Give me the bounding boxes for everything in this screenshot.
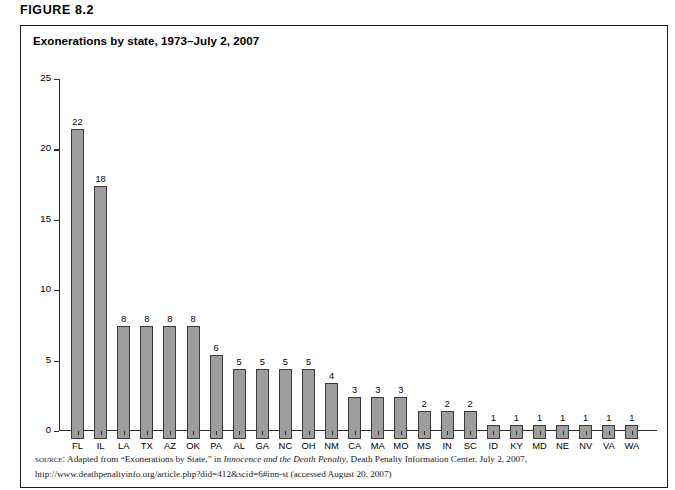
bar[interactable]: 18 — [94, 87, 107, 439]
x-axis-label: PA — [203, 440, 229, 451]
x-axis-label: AZ — [157, 440, 183, 451]
y-tick-mark — [54, 220, 59, 221]
x-tick-mark — [355, 431, 356, 435]
bar-value-label: 22 — [72, 117, 82, 127]
x-tick-mark — [401, 431, 402, 435]
bar-rect — [117, 326, 130, 439]
bar[interactable]: 2 — [441, 87, 454, 439]
x-tick-mark — [378, 431, 379, 435]
bar[interactable]: 1 — [487, 87, 500, 439]
bar[interactable]: 8 — [117, 87, 130, 439]
x-tick-mark — [540, 431, 541, 435]
bar-value-label: 4 — [329, 371, 334, 381]
x-axis-label: NC — [272, 440, 298, 451]
bar[interactable]: 8 — [163, 87, 176, 439]
bar-rect — [71, 129, 84, 439]
y-tick-label: 15 — [40, 213, 51, 224]
x-axis-label: VA — [596, 440, 622, 451]
x-axis-label: KY — [503, 440, 529, 451]
source-italic-title: Innocence and the Death Penalty — [224, 454, 346, 464]
x-axis-label: OK — [180, 440, 206, 451]
chart-plot-area: 0510152025 221888886555543332221111111 F… — [59, 79, 657, 439]
bar-value-label: 6 — [214, 343, 219, 353]
bar[interactable]: 5 — [233, 87, 246, 439]
bar[interactable]: 22 — [71, 87, 84, 439]
x-tick-mark — [147, 431, 148, 435]
x-tick-mark — [609, 431, 610, 435]
y-tick-mark — [54, 290, 59, 291]
bar[interactable]: 4 — [325, 87, 338, 439]
x-axis-label: IN — [434, 440, 460, 451]
bar[interactable]: 2 — [418, 87, 431, 439]
bar[interactable]: 3 — [348, 87, 361, 439]
bar-value-label: 5 — [306, 357, 311, 367]
x-axis-label: ID — [480, 440, 506, 451]
bar[interactable]: 3 — [394, 87, 407, 439]
source-label: source: — [35, 453, 65, 464]
bar-rect — [233, 369, 246, 439]
source-note: source: Adapted from “Exonerations by St… — [35, 452, 653, 481]
x-axis-label: LA — [111, 440, 137, 451]
x-tick-mark — [332, 431, 333, 435]
x-axis-label: WA — [619, 440, 645, 451]
x-axis-label: IL — [88, 440, 114, 451]
x-tick-mark — [563, 431, 564, 435]
bar[interactable]: 8 — [140, 87, 153, 439]
x-axis-label: NM — [319, 440, 345, 451]
x-axis-label: GA — [249, 440, 275, 451]
x-axis-label: MA — [365, 440, 391, 451]
x-tick-mark — [424, 431, 425, 435]
bar[interactable]: 1 — [556, 87, 569, 439]
y-tick-label: 10 — [40, 283, 51, 294]
bar[interactable]: 1 — [625, 87, 638, 439]
y-tick-label: 0 — [46, 424, 51, 435]
bar[interactable]: 1 — [510, 87, 523, 439]
bar[interactable]: 6 — [210, 87, 223, 439]
bar-value-label: 1 — [514, 413, 519, 423]
x-tick-mark — [216, 431, 217, 435]
bar-value-label: 18 — [95, 174, 105, 184]
bar-value-label: 1 — [629, 413, 634, 423]
bar-value-label: 2 — [468, 399, 473, 409]
y-tick-mark — [54, 79, 59, 80]
bar-value-label: 1 — [606, 413, 611, 423]
bar-value-label: 8 — [167, 314, 172, 324]
bar[interactable]: 1 — [533, 87, 546, 439]
bar[interactable]: 5 — [279, 87, 292, 439]
x-axis-label: MD — [527, 440, 553, 451]
x-axis-label: OH — [296, 440, 322, 451]
bar[interactable]: 8 — [187, 87, 200, 439]
x-axis-label: FL — [65, 440, 91, 451]
bar-rect — [187, 326, 200, 439]
bar-value-label: 8 — [144, 314, 149, 324]
x-axis-label: AL — [226, 440, 252, 451]
figure-number: FIGURE 8.2 — [20, 3, 94, 17]
y-tick-label: 5 — [46, 354, 51, 365]
x-axis-label: MO — [388, 440, 414, 451]
x-tick-mark — [632, 431, 633, 435]
x-tick-mark — [493, 431, 494, 435]
bar-value-label: 5 — [283, 357, 288, 367]
x-tick-mark — [516, 431, 517, 435]
bar-value-label: 1 — [560, 413, 565, 423]
bar-value-label: 3 — [352, 385, 357, 395]
bar-value-label: 2 — [421, 399, 426, 409]
bar[interactable]: 5 — [256, 87, 269, 439]
bar-value-label: 8 — [121, 314, 126, 324]
bar-value-label: 3 — [375, 385, 380, 395]
bar[interactable]: 3 — [371, 87, 384, 439]
bar[interactable]: 1 — [579, 87, 592, 439]
bar[interactable]: 5 — [302, 87, 315, 439]
bar-value-label: 5 — [237, 357, 242, 367]
bar[interactable]: 2 — [464, 87, 477, 439]
bar-value-label: 5 — [260, 357, 265, 367]
bar-rect — [140, 326, 153, 439]
bar[interactable]: 1 — [602, 87, 615, 439]
y-tick-mark — [54, 431, 59, 432]
bar-value-label: 8 — [190, 314, 195, 324]
bar-value-label: 3 — [398, 385, 403, 395]
chart-title: Exonerations by state, 1973–July 2, 2007 — [33, 34, 259, 47]
y-tick-label: 25 — [40, 72, 51, 83]
x-tick-mark — [101, 431, 102, 435]
x-tick-mark — [239, 431, 240, 435]
